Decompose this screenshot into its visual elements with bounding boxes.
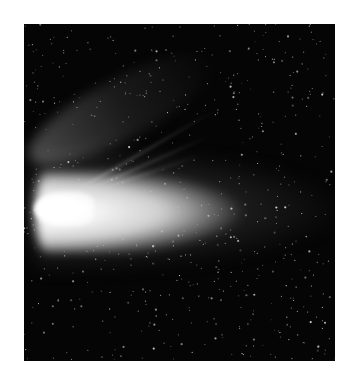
comet-head: [34, 192, 94, 226]
comet-photo: [24, 24, 335, 361]
